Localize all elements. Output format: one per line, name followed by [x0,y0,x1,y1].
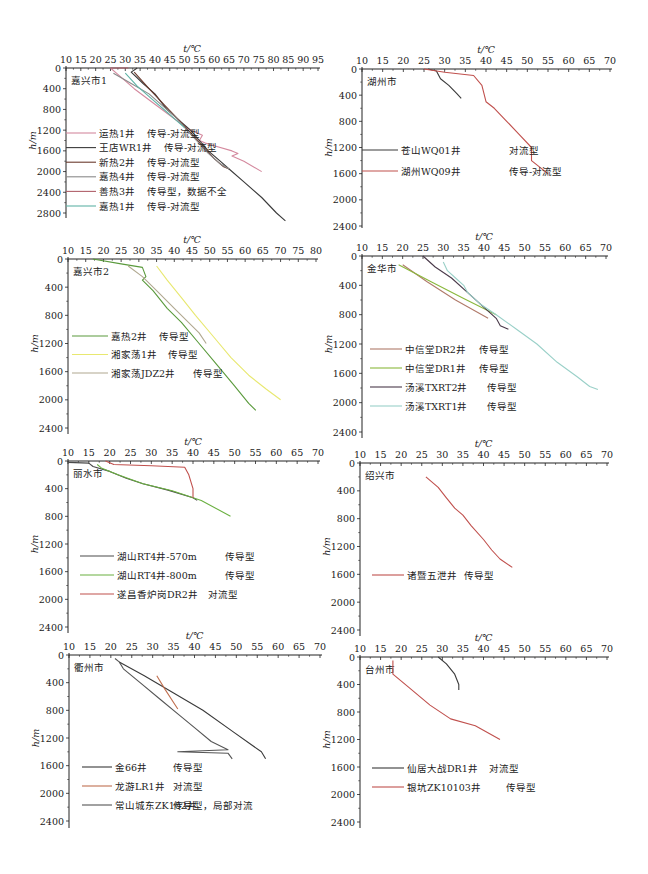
y-tick-label: 1600 [331,569,355,580]
legend-well-name: 湘家荡JDZ2井 [111,368,175,379]
x-tick-label: 70 [600,242,612,253]
y-tick-label: 2000 [331,789,355,800]
x-tick-label: 30 [436,449,448,460]
chart-panel-huzhou: 10152025303540455055606570t/℃04008001200… [323,44,616,232]
legend-type-label: 传导-对流型 [509,166,562,177]
y-tick-label: 800 [339,116,357,127]
x-tick-label: 30 [119,54,131,65]
legend-well-name: 诸暨五泄井 [407,570,457,581]
y-tick-label: 1200 [39,539,63,550]
series-curve-1 [399,265,497,315]
y-tick-label: 0 [351,251,357,262]
x-tick-label: 25 [416,449,428,460]
y-tick-label: 400 [339,280,357,291]
x-tick-label: 30 [436,643,448,654]
series-curve-0 [119,662,265,759]
series-curve-1 [97,465,230,517]
y-tick-label: 800 [339,309,357,320]
legend-well-name: 嘉热1井 [99,201,135,212]
y-tick-label: 2400 [39,423,63,434]
legend-well-name: 嘉热2井 [111,331,147,342]
x-tick-label: 60 [208,54,220,65]
x-tick-label: 65 [257,245,269,256]
y-tick-label: 800 [46,705,64,716]
x-tick-label: 65 [293,641,305,652]
x-tick-label: 15 [80,245,92,256]
series-curve-1 [393,660,500,739]
region-label: 湖州市 [367,76,397,87]
x-tick-label: 30 [437,242,449,253]
region-label: 台州市 [365,664,395,675]
legend-well-name: 仙居大战DR1井 [407,763,478,774]
legend-well-name: 新热2井 [99,157,135,168]
series-curve-1 [157,676,178,709]
x-tick-label: 45 [208,447,220,458]
x-tick-label: 10 [354,643,366,654]
x-tick-label: 45 [164,54,176,65]
legend-type-label: 传导型 [193,368,223,379]
x-tick-label: 30 [133,245,145,256]
region-label: 嘉兴市2 [73,266,109,277]
y-axis-title: h/m [321,730,332,748]
y-tick-label: 0 [349,652,355,663]
legend-well-name: 运热1井 [99,128,135,139]
legend-type-label: 传导-对流型 [147,157,200,168]
x-tick-label: 60 [239,245,251,256]
x-tick-label: 20 [105,641,117,652]
series-curve-5 [125,73,184,127]
legend-type-label: 传导型 [225,551,255,562]
x-tick-label: 50 [521,55,533,66]
x-tick-label: 20 [90,54,102,65]
x-tick-label: 25 [418,55,430,66]
region-label: 衢州市 [74,662,104,673]
x-tick-label: 50 [519,242,531,253]
y-tick-label: 1600 [39,366,63,377]
y-tick-label: 0 [58,650,64,661]
y-tick-label: 1600 [333,168,357,179]
y-tick-label: 400 [45,282,63,293]
x-tick-label: 25 [115,245,127,256]
x-tick-label: 40 [187,447,199,458]
x-tick-label: 25 [104,54,116,65]
x-tick-label: 15 [375,449,387,460]
y-tick-label: 2800 [37,208,61,219]
legend-type-label: 对流型 [489,763,519,774]
x-tick-label: 35 [134,54,146,65]
series-curve-1 [424,69,548,174]
y-tick-label: 2000 [40,788,64,799]
x-tick-label: 45 [498,449,510,460]
x-tick-label: 75 [253,54,265,65]
legend-type-label: 对流型 [509,145,539,156]
x-tick-label: 60 [559,242,571,253]
x-tick-label: 15 [75,54,87,65]
chart-panel-jiaxing2: 101520253035404550556065707580t/℃0400800… [29,234,322,434]
y-tick-label: 2000 [39,394,63,405]
x-tick-label: 50 [230,641,242,652]
chart-panel-jiaxing1: 101520253035404550556065707580859095t/℃0… [27,43,324,221]
x-tick-label: 10 [60,54,72,65]
y-axis-title: h/m [29,334,40,352]
y-tick-label: 2000 [333,194,357,205]
x-tick-label: 50 [204,245,216,256]
series-curve-2 [134,72,229,169]
legend-type-label: 传导型，局部对流 [173,800,253,811]
y-tick-label: 2400 [39,622,63,633]
x-axis-title: t/℃ [186,630,204,641]
legend-well-name: 金66井 [115,762,147,773]
legend-type-label: 传导型 [479,344,509,355]
chart-panel-lishui: 10152025303540455055606570t/℃04008001200… [29,436,324,633]
y-tick-label: 1200 [331,734,355,745]
y-axis-title: h/m [30,729,41,747]
x-tick-label: 25 [124,447,136,458]
x-tick-label: 25 [416,643,428,654]
legend-well-name: 中信堂DR2井 [405,344,466,355]
x-tick-label: 10 [356,242,368,253]
y-tick-label: 1600 [331,762,355,773]
x-tick-label: 20 [397,55,409,66]
y-axis-title: h/m [323,335,334,353]
y-tick-label: 2000 [333,397,357,408]
x-tick-label: 65 [291,447,303,458]
y-axis-title: h/m [27,131,38,149]
x-tick-label: 35 [458,242,470,253]
legend-well-name: 湘家荡1井 [111,349,157,360]
